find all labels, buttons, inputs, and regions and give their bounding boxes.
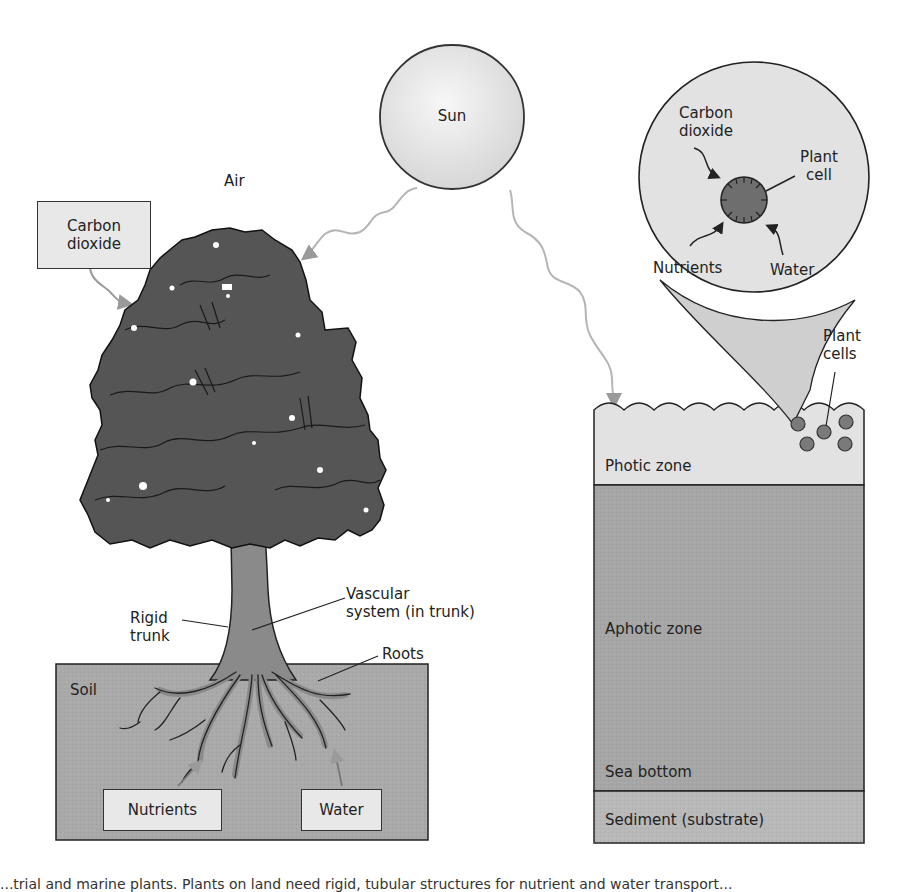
carbon-dioxide-box: Carbon dioxide bbox=[37, 201, 151, 269]
aphotic-zone-label: Aphotic zone bbox=[605, 620, 702, 638]
air-label: Air bbox=[224, 172, 245, 190]
photic-zone-label: Photic zone bbox=[605, 457, 692, 475]
roots-label: Roots bbox=[382, 645, 424, 663]
magnifier-water-label: Water bbox=[770, 261, 814, 279]
soil-label: Soil bbox=[70, 681, 97, 699]
nutrients-box: Nutrients bbox=[103, 789, 222, 831]
water-box: Water bbox=[301, 789, 382, 831]
figure-caption: ...trial and marine plants. Plants on la… bbox=[0, 876, 900, 892]
sea-bottom-label: Sea bottom bbox=[605, 763, 692, 781]
light-ray-to-ocean bbox=[510, 190, 614, 405]
vascular-system-label: Vascular system (in trunk) bbox=[346, 585, 475, 621]
co2-arrow bbox=[90, 268, 130, 304]
sediment-label: Sediment (substrate) bbox=[605, 811, 764, 829]
sun-label: Sun bbox=[422, 107, 482, 125]
plant-cells-label: Plant cells bbox=[823, 327, 861, 363]
plant-cell-icon bbox=[721, 177, 767, 223]
light-ray-to-tree bbox=[304, 188, 417, 258]
rigid-trunk-label: Rigid trunk bbox=[130, 609, 170, 645]
magnifier-plant-cell-label: Plant cell bbox=[794, 148, 844, 184]
tree-crown bbox=[80, 228, 386, 548]
magnifier-nutrients-label: Nutrients bbox=[653, 259, 722, 277]
magnifier-co2-label: Carbon dioxide bbox=[666, 104, 746, 140]
